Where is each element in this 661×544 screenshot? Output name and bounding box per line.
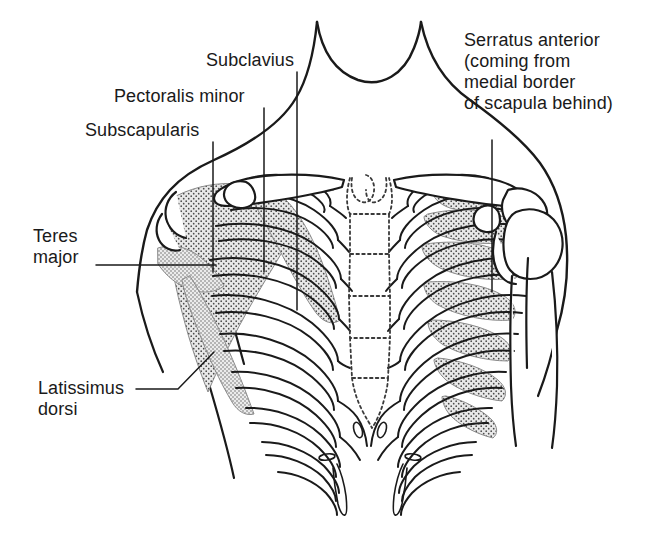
label-serratus-anterior: Serratus anterior (coming from medial bo… bbox=[464, 30, 613, 114]
label-subscapularis: Subscapularis bbox=[85, 120, 199, 141]
label-pectoralis-minor: Pectoralis minor bbox=[114, 86, 245, 107]
label-teres-major: Teres major bbox=[33, 226, 79, 268]
label-latissimus-dorsi: Latissimus dorsi bbox=[38, 378, 124, 420]
anatomy-figure: Subclavius Pectoralis minor Subscapulari… bbox=[0, 0, 661, 544]
sternum bbox=[347, 175, 392, 428]
label-subclavius: Subclavius bbox=[206, 50, 294, 71]
